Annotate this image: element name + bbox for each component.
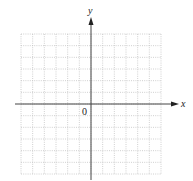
coordinate-plane: x y 0 <box>0 0 193 181</box>
y-axis-arrow-icon <box>89 17 94 25</box>
x-axis-arrow-icon <box>171 102 179 107</box>
y-axis-label: y <box>87 5 93 16</box>
x-axis-label: x <box>180 98 186 109</box>
origin-label: 0 <box>82 106 87 117</box>
